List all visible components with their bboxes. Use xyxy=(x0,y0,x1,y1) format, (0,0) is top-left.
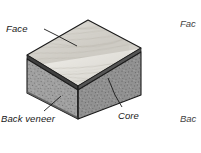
veneer-block-figure: Face Back veneer Core Fac Bac xyxy=(0,0,201,153)
margin-clipped-label-bottom: Bac xyxy=(180,113,201,124)
label-back-veneer: Back veneer xyxy=(1,113,55,124)
label-face: Face xyxy=(6,23,28,34)
label-core: Core xyxy=(118,110,139,121)
margin-clipped-label-top: Fac xyxy=(180,18,201,29)
block-illustration xyxy=(0,0,201,153)
